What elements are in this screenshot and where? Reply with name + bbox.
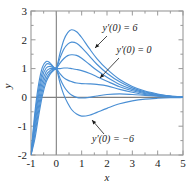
x-tick-label: 4	[155, 157, 161, 169]
figure-container: -1012345-2-10123 y′(0) = 6y′(0) = 0y′(0)…	[0, 0, 196, 187]
x-tick-label: 0	[54, 157, 60, 169]
y-axis-label: y	[1, 83, 13, 89]
x-tick-label: -1	[26, 157, 35, 169]
y-tick-label: 2	[22, 34, 28, 46]
x-tick-label: 2	[104, 157, 110, 169]
x-tick-label: 5	[180, 157, 186, 169]
y-tick-label: 3	[22, 5, 28, 17]
y-tick-label: 1	[22, 62, 28, 74]
x-axis-label: x	[104, 171, 110, 183]
x-tick-label: 3	[130, 157, 136, 169]
slope-field-solution-curves-chart: -1012345-2-10123 y′(0) = 6y′(0) = 0y′(0)…	[0, 0, 196, 187]
curve-annotation-label: y′(0) = 0	[115, 44, 151, 56]
x-tick-label: 1	[79, 157, 85, 169]
curve-annotation-label: y′(0) = 6	[101, 22, 137, 34]
curve-annotation-label: y′(0) = −6	[91, 133, 134, 145]
curve-annotations: y′(0) = 6y′(0) = 0y′(0) = −6	[91, 22, 151, 145]
y-tick-label: -2	[18, 149, 27, 161]
y-tick-label: -1	[18, 120, 27, 132]
y-tick-label: 0	[22, 91, 28, 103]
